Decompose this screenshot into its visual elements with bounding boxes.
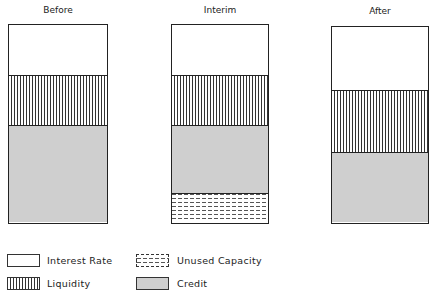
legend-swatch-unused-capacity — [136, 254, 169, 267]
legend-label-unused-capacity: Unused Capacity — [177, 255, 262, 266]
column-title-after: After — [330, 6, 430, 16]
segment-unused-capacity — [172, 193, 268, 222]
legend-label-liquidity: Liquidity — [47, 278, 90, 289]
segment-interest-rate — [332, 27, 428, 90]
column-title-before: Before — [8, 5, 108, 15]
segment-credit — [172, 125, 268, 193]
legend-label-credit: Credit — [177, 278, 207, 289]
legend-swatch-credit — [136, 277, 169, 290]
legend-swatch-liquidity — [7, 277, 40, 290]
bar-after — [331, 26, 429, 224]
segment-credit — [332, 152, 428, 222]
legend-swatch-interest-rate — [7, 254, 40, 267]
segment-interest-rate — [9, 25, 107, 75]
column-title-interim: Interim — [170, 5, 270, 15]
segment-liquidity — [9, 75, 107, 125]
segment-liquidity — [332, 90, 428, 152]
segment-credit — [9, 125, 107, 222]
bar-interim — [171, 24, 269, 224]
segment-interest-rate — [172, 25, 268, 75]
segment-liquidity — [172, 75, 268, 125]
bar-before — [8, 24, 108, 224]
legend-label-interest-rate: Interest Rate — [47, 255, 112, 266]
